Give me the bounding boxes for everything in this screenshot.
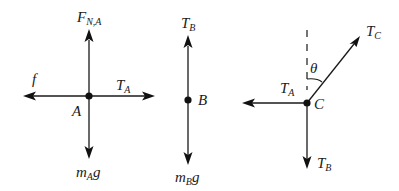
free-body-diagram-c: θ TA TB TC C	[242, 23, 381, 173]
label-tension-a-at-c: TA	[280, 80, 295, 98]
point-a-dot	[85, 92, 92, 99]
label-weight-a: mAg	[76, 164, 101, 182]
free-body-diagram-a: FN,A mAg f TA A	[23, 9, 155, 182]
label-tension-b-at-c: TB	[317, 155, 331, 173]
arrowhead-diagonal-icon	[350, 36, 361, 47]
point-b-dot	[184, 96, 191, 103]
label-friction-a: f	[32, 71, 38, 87]
label-tension-b: TB	[181, 15, 195, 33]
label-angle-theta: θ	[310, 60, 318, 76]
free-body-diagrams: FN,A mAg f TA A TB mBg B θ	[0, 0, 399, 191]
label-point-c: C	[314, 96, 325, 112]
label-tension-a: TA	[116, 77, 131, 95]
label-normal-force-a: FN,A	[76, 9, 102, 27]
label-point-b: B	[198, 92, 207, 108]
angle-theta-arc	[307, 79, 322, 82]
label-weight-b: mBg	[175, 169, 200, 187]
point-c-dot	[303, 99, 310, 106]
label-point-a: A	[71, 103, 82, 119]
label-tension-c: TC	[366, 23, 381, 41]
free-body-diagram-b: TB mBg B	[175, 15, 207, 187]
